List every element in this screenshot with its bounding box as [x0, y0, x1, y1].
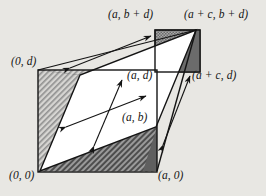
label-zero-d: (0, d): [11, 56, 37, 68]
label-a-b-plus-d: (a, b + d): [108, 9, 153, 21]
label-a-plus-c-b-plus-d: (a + c, b + d): [184, 9, 248, 21]
label-a-b: (a, b): [122, 112, 148, 124]
geometry-figure: [0, 0, 266, 196]
label-a-plus-c-d: (a + c, d): [192, 70, 237, 82]
label-origin: (0, 0): [9, 170, 35, 182]
label-a-d: (a, d): [127, 70, 153, 82]
label-a-zero: (a, 0): [158, 170, 184, 182]
